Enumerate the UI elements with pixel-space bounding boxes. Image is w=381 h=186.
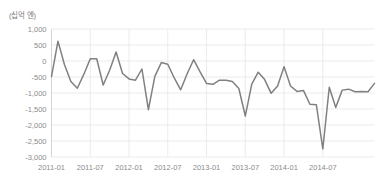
y-axis-tick-label: 500 [34, 41, 47, 50]
y-axis-tick-label: -2,000 [25, 121, 46, 130]
y-axis-tick-labels: 1,0005000-500-1,000-1,500-2,000-2,500-3,… [25, 25, 46, 162]
x-axis-tick-label: 2014-07 [309, 163, 337, 172]
data-line-trade-balance [52, 41, 375, 149]
x-axis-tick-label: 2014-01 [270, 163, 298, 172]
x-axis-tick-label: 2012-01 [115, 163, 143, 172]
x-axis-tick-label: 2013-07 [232, 163, 260, 172]
y-axis-tick-label: -2,500 [25, 137, 46, 146]
plot-area: 1,0005000-500-1,000-1,500-2,000-2,500-3,… [0, 0, 381, 186]
y-axis-tick-label: 1,000 [28, 25, 47, 34]
chart-container: (십억 엔) 1,0005000-500-1,000-1,500-2,000-2… [0, 0, 381, 186]
y-axis-tick-label: 0 [42, 57, 46, 66]
x-axis-tick-label: 2012-07 [154, 163, 182, 172]
x-axis-tick-label: 2011-07 [77, 163, 104, 172]
x-axis-tick-label: 2011-01 [38, 163, 65, 172]
x-axis-tick-label: 2013-01 [193, 163, 221, 172]
y-axis-tick-label: -1,000 [25, 89, 46, 98]
y-axis-tick-label: -500 [31, 73, 46, 82]
y-axis-tick-label: -3,000 [25, 153, 46, 162]
y-axis-tick-label: -1,500 [25, 105, 46, 114]
x-axis-tick-labels: 2011-012011-072012-012012-072013-012013-… [38, 163, 337, 172]
line-chart-svg: 1,0005000-500-1,000-1,500-2,000-2,500-3,… [0, 0, 381, 186]
horizontal-gridlines [52, 29, 375, 157]
